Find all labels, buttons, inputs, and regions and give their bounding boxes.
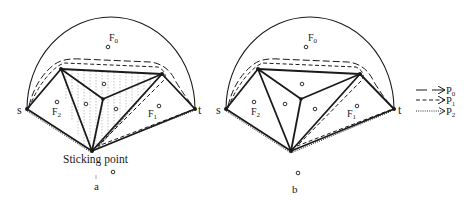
- face-marker-f2: [55, 100, 59, 104]
- label-t: t: [198, 103, 202, 117]
- label-t: t: [398, 103, 402, 117]
- diagram-a: s t F0 F2 F1 Sticking point a: [17, 17, 202, 192]
- label-f1: F1: [347, 108, 357, 121]
- face-marker-f0: [304, 45, 308, 49]
- label-s: s: [216, 103, 221, 117]
- label-f0: F0: [308, 32, 318, 45]
- legend-item-p2: P2: [416, 106, 456, 119]
- face-marker-f1: [157, 104, 161, 108]
- label-f2: F2: [251, 106, 261, 119]
- face-marker-f0: [106, 45, 110, 49]
- path-p0: [29, 59, 193, 106]
- figure-canvas: s t F0 F2 F1 Sticking point a: [0, 0, 472, 206]
- diagram-b: s t F0 F2 F1 b: [216, 17, 402, 195]
- caption-a: a: [94, 180, 99, 192]
- label-s: s: [17, 103, 22, 117]
- sticking-point-label: Sticking point: [63, 153, 129, 166]
- path-p0: [228, 59, 391, 106]
- label-f1: F1: [148, 108, 158, 121]
- face-marker-f1: [355, 104, 359, 108]
- face-marker-f2: [252, 100, 256, 104]
- label-f0: F0: [109, 32, 119, 45]
- legend: P0 P1 P2: [416, 85, 456, 119]
- label-f2: F2: [52, 106, 62, 119]
- caption-b: b: [292, 183, 298, 195]
